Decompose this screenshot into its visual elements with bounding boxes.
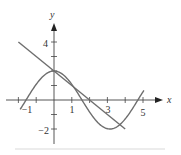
chart-canvas: −1 1 3 5 4 −2 x y xyxy=(0,0,181,155)
y-tick-label: 4 xyxy=(43,38,48,49)
x-tick-label: 1 xyxy=(70,104,75,115)
x-axis-label: x xyxy=(166,94,172,105)
x-axis-arrow-icon xyxy=(155,97,163,103)
y-axis-arrow-icon xyxy=(51,23,57,31)
y-axis-label: y xyxy=(49,9,55,20)
y-axis xyxy=(51,23,57,144)
tangent-line xyxy=(18,42,125,129)
x-tick-label: 5 xyxy=(141,107,146,118)
y-tick-label: −2 xyxy=(38,125,49,136)
